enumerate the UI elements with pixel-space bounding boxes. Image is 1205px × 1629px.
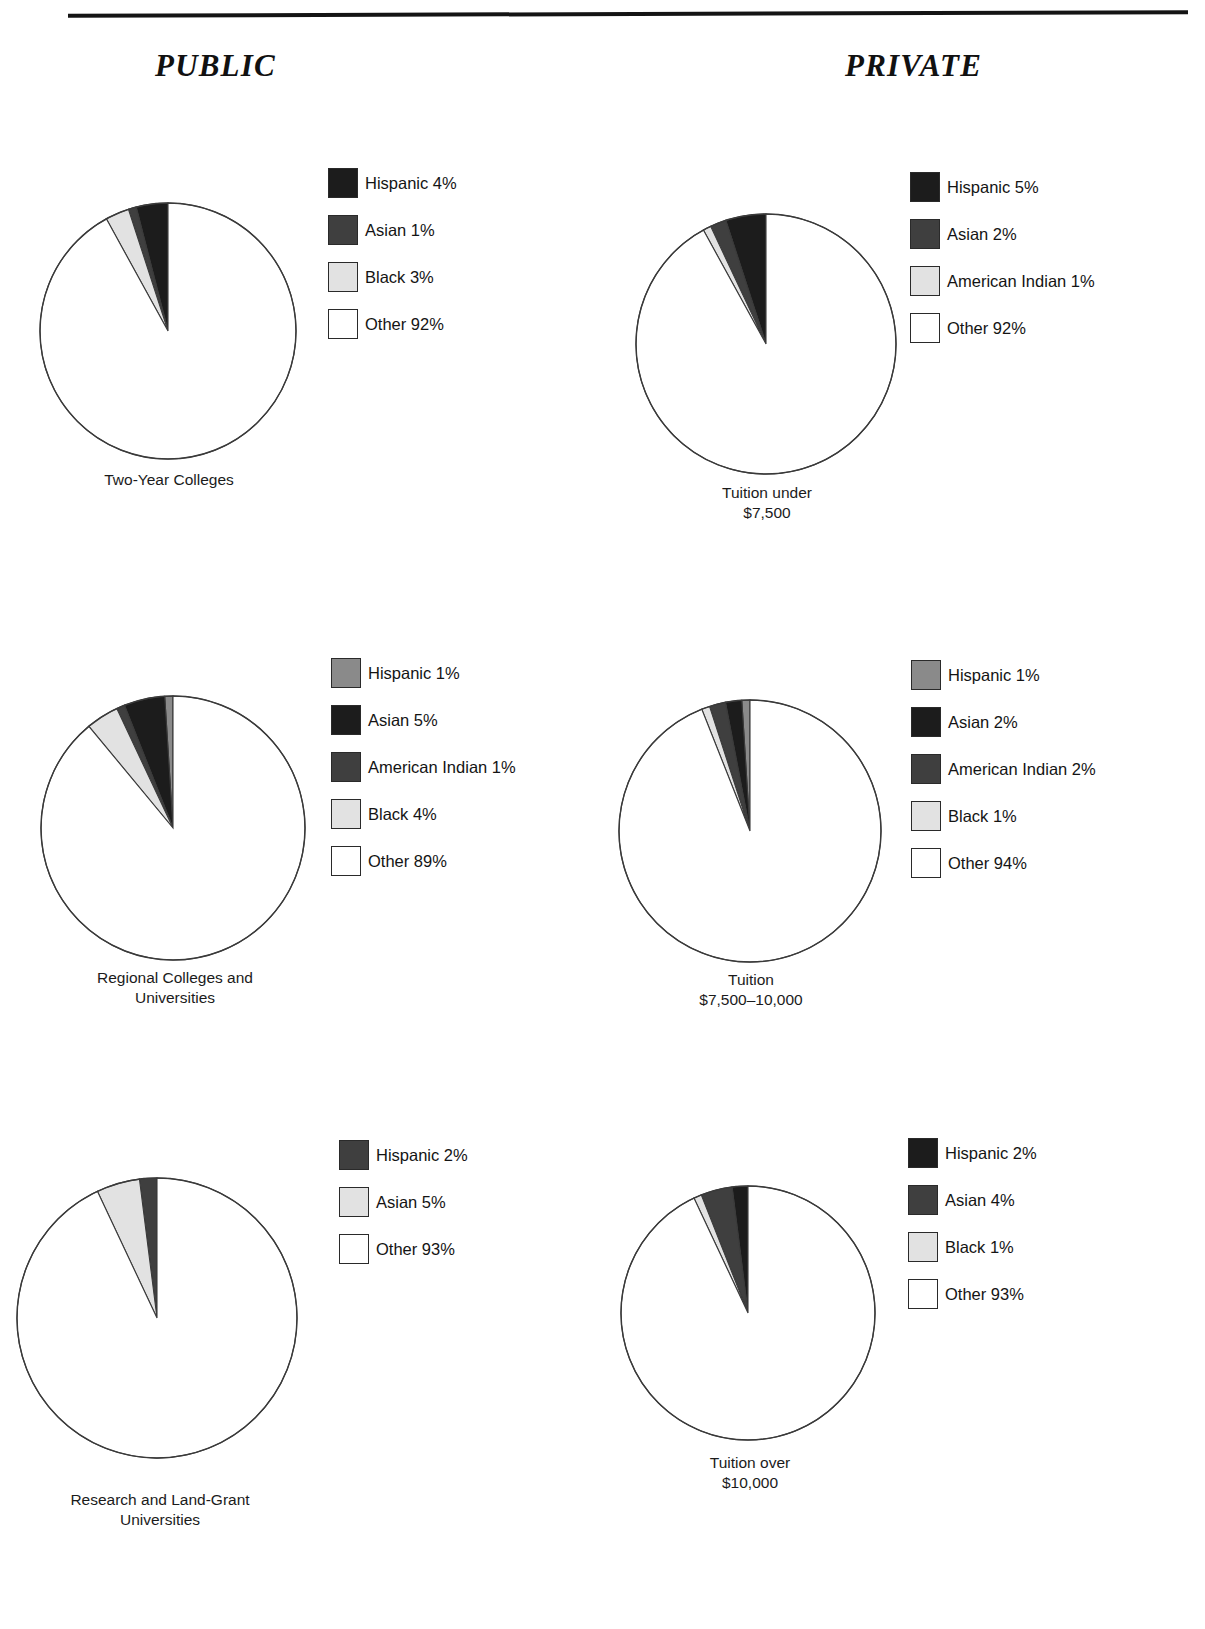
pie-slice-other — [41, 696, 305, 960]
legend-label: Hispanic 1% — [948, 666, 1040, 685]
legend-label: Hispanic 5% — [947, 178, 1039, 197]
legend-item: Other 93% — [908, 1279, 1037, 1309]
legend-private-7500-10000: Hispanic 1%Asian 2%American Indian 2%Bla… — [911, 660, 1096, 895]
legend-label: American Indian 2% — [948, 760, 1096, 779]
legend-label: Asian 1% — [365, 221, 435, 240]
legend-label: Other 92% — [947, 319, 1026, 338]
legend-label: Hispanic 2% — [376, 1146, 468, 1165]
legend-item: Black 1% — [911, 801, 1096, 831]
pie-chart-public-research — [14, 1175, 300, 1461]
legend-label: Other 93% — [945, 1285, 1024, 1304]
legend-label: Asian 4% — [945, 1191, 1015, 1210]
pie-chart-private-under-7500 — [633, 211, 899, 477]
legend-swatch-icon — [910, 313, 940, 343]
legend-swatch-icon — [331, 705, 361, 735]
legend-swatch-icon — [331, 752, 361, 782]
legend-item: Asian 5% — [339, 1187, 468, 1217]
legend-swatch-icon — [331, 658, 361, 688]
legend-item: Asian 2% — [911, 707, 1096, 737]
pie-chart-public-regional — [38, 693, 308, 963]
legend-swatch-icon — [908, 1138, 938, 1168]
legend-label: American Indian 1% — [368, 758, 516, 777]
legend-item: Black 3% — [328, 262, 457, 292]
legend-swatch-icon — [339, 1187, 369, 1217]
legend-swatch-icon — [911, 801, 941, 831]
legend-public-research: Hispanic 2%Asian 5%Other 93% — [339, 1140, 468, 1281]
legend-item: American Indian 1% — [331, 752, 516, 782]
legend-swatch-icon — [328, 262, 358, 292]
legend-swatch-icon — [911, 707, 941, 737]
legend-label: American Indian 1% — [947, 272, 1095, 291]
pie-slice-other — [621, 1186, 875, 1440]
legend-item: Black 1% — [908, 1232, 1037, 1262]
legend-swatch-icon — [911, 754, 941, 784]
pie-caption-private-7500-10000: Tuition $7,500–10,000 — [618, 970, 884, 1010]
legend-swatch-icon — [911, 660, 941, 690]
legend-label: Other 89% — [368, 852, 447, 871]
pie-slice-other — [40, 203, 296, 459]
header-rule — [68, 10, 1188, 18]
legend-item: Other 93% — [339, 1234, 468, 1264]
legend-swatch-icon — [908, 1185, 938, 1215]
legend-label: Black 1% — [945, 1238, 1014, 1257]
legend-item: American Indian 1% — [910, 266, 1095, 296]
legend-swatch-icon — [328, 309, 358, 339]
pie-caption-public-two-year: Two-Year Colleges — [38, 470, 300, 490]
legend-label: Hispanic 1% — [368, 664, 460, 683]
legend-label: Asian 2% — [947, 225, 1017, 244]
legend-label: Hispanic 4% — [365, 174, 457, 193]
pie-caption-private-over-10000: Tuition over $10,000 — [618, 1453, 882, 1493]
legend-swatch-icon — [331, 799, 361, 829]
legend-item: Hispanic 2% — [339, 1140, 468, 1170]
legend-item: American Indian 2% — [911, 754, 1096, 784]
pie-chart-private-over-10000 — [618, 1183, 878, 1443]
legend-item: Asian 5% — [331, 705, 516, 735]
legend-swatch-icon — [328, 168, 358, 198]
legend-swatch-icon — [910, 219, 940, 249]
legend-private-under-7500: Hispanic 5%Asian 2%American Indian 1%Oth… — [910, 172, 1095, 360]
legend-label: Hispanic 2% — [945, 1144, 1037, 1163]
legend-item: Other 92% — [328, 309, 457, 339]
legend-swatch-icon — [910, 172, 940, 202]
pie-slice-other — [636, 214, 896, 474]
legend-label: Other 94% — [948, 854, 1027, 873]
legend-swatch-icon — [911, 848, 941, 878]
legend-item: Black 4% — [331, 799, 516, 829]
legend-label: Other 92% — [365, 315, 444, 334]
legend-item: Other 89% — [331, 846, 516, 876]
legend-item: Hispanic 2% — [908, 1138, 1037, 1168]
legend-label: Asian 5% — [368, 711, 438, 730]
pie-slice-other — [619, 700, 881, 962]
legend-swatch-icon — [339, 1140, 369, 1170]
column-heading-private: PRIVATE — [845, 48, 982, 84]
pie-caption-private-under-7500: Tuition under $7,500 — [636, 483, 898, 523]
pie-slice-other — [17, 1178, 297, 1458]
legend-swatch-icon — [339, 1234, 369, 1264]
legend-item: Other 94% — [911, 848, 1096, 878]
legend-item: Asian 1% — [328, 215, 457, 245]
legend-item: Hispanic 1% — [911, 660, 1096, 690]
legend-item: Asian 4% — [908, 1185, 1037, 1215]
column-heading-public: PUBLIC — [155, 48, 276, 84]
legend-label: Black 4% — [368, 805, 437, 824]
legend-swatch-icon — [328, 215, 358, 245]
pie-chart-public-two-year — [37, 200, 299, 462]
pie-chart-private-7500-10000 — [616, 697, 884, 965]
legend-swatch-icon — [908, 1279, 938, 1309]
legend-item: Asian 2% — [910, 219, 1095, 249]
legend-swatch-icon — [910, 266, 940, 296]
legend-item: Hispanic 4% — [328, 168, 457, 198]
legend-public-regional: Hispanic 1%Asian 5%American Indian 1%Bla… — [331, 658, 516, 893]
pie-caption-public-research: Research and Land-Grant Universities — [15, 1490, 305, 1530]
legend-item: Hispanic 5% — [910, 172, 1095, 202]
legend-swatch-icon — [331, 846, 361, 876]
legend-item: Hispanic 1% — [331, 658, 516, 688]
legend-public-two-year: Hispanic 4%Asian 1%Black 3%Other 92% — [328, 168, 457, 356]
legend-label: Asian 5% — [376, 1193, 446, 1212]
legend-label: Other 93% — [376, 1240, 455, 1259]
legend-item: Other 92% — [910, 313, 1095, 343]
legend-label: Black 1% — [948, 807, 1017, 826]
legend-label: Asian 2% — [948, 713, 1018, 732]
legend-swatch-icon — [908, 1232, 938, 1262]
pie-caption-public-regional: Regional Colleges and Universities — [40, 968, 310, 1008]
